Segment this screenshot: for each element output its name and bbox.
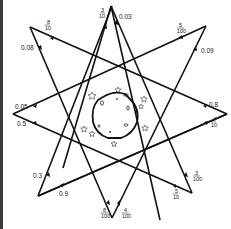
label-lower-right-1-den: 100 — [193, 176, 202, 182]
edge-bottom-a — [30, 27, 112, 218]
crater — [101, 101, 104, 105]
star-icon — [81, 126, 88, 132]
crater — [98, 125, 100, 128]
labels: 3 10 0.03 8 10 0.08 5 100 0.09 0.05 0.5 … — [15, 7, 218, 219]
label-top-right: 0.03 — [119, 13, 132, 20]
star-icon — [138, 104, 143, 109]
label-lower-left-1: 0.3 — [33, 172, 42, 179]
label-lower-right-2-den: 10 — [173, 194, 179, 200]
label-upper-right-dec: 0.09 — [201, 47, 214, 54]
label-bottom-left-den: 100 — [101, 213, 110, 219]
label-upper-left-den: 10 — [45, 25, 51, 31]
star-icon — [142, 125, 149, 131]
edge-lowerright-b — [111, 6, 192, 193]
crater — [127, 106, 129, 110]
star-icon — [88, 92, 96, 99]
label-bottom-right-den: 100 — [122, 213, 131, 219]
diagram-canvas: 3 10 0.03 8 10 0.08 5 100 0.09 0.05 0.5 … — [0, 0, 231, 229]
label-right-top: 0.8 — [209, 101, 218, 108]
label-left-top: 0.05 — [15, 103, 28, 110]
crater — [124, 124, 128, 126]
edge-top-to-lowerleft-dir — [63, 6, 111, 168]
star-edges — [13, 6, 227, 220]
arrowhead-icon — [32, 121, 37, 125]
star-icon — [141, 96, 148, 102]
planet-outline — [93, 93, 138, 138]
label-upper-left-dec: 0.08 — [21, 44, 34, 51]
star-icon — [89, 131, 95, 136]
label-upper-right-den: 100 — [177, 28, 186, 34]
edge-upperright-a — [13, 26, 206, 114]
label-top-left-den: 10 — [99, 13, 105, 19]
edge-lowerright-a — [13, 114, 192, 193]
edge-upperright-b — [112, 26, 206, 218]
label-lower-left-2: 0.9 — [59, 190, 68, 197]
label-right-bottom-den: 10 — [211, 122, 217, 128]
crater — [109, 132, 111, 133]
edge-top-to-bottomright — [111, 6, 160, 220]
planet — [93, 93, 138, 138]
label-left-bottom: 0.5 — [17, 120, 26, 127]
star-icon — [111, 141, 117, 146]
edge-right-a — [30, 27, 227, 114]
octagram-diagram: 3 10 0.03 8 10 0.08 5 100 0.09 0.05 0.5 … — [0, 0, 231, 229]
crater — [116, 98, 117, 99]
